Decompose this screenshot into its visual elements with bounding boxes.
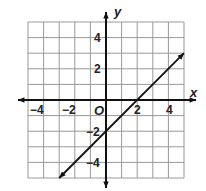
coordinate-plane: [0, 0, 206, 191]
x-tick-label: −4: [30, 104, 44, 116]
y-tick-label: 2: [94, 63, 101, 75]
y-tick-label: 4: [94, 32, 101, 44]
y-tick-label: −2: [86, 126, 100, 138]
axes: [18, 12, 196, 188]
origin-label: O: [94, 104, 104, 117]
x-tick-label: −2: [62, 104, 76, 116]
y-tick-label: −4: [86, 157, 100, 169]
y-axis-label: y: [114, 5, 121, 18]
x-tick-label: 4: [166, 104, 173, 116]
x-tick-label: 2: [134, 104, 141, 116]
x-axis-label: x: [190, 86, 197, 99]
